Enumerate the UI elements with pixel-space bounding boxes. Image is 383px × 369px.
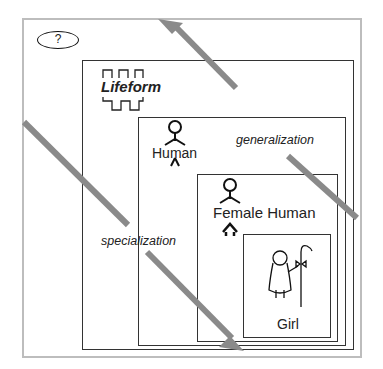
human-label: Human (152, 145, 197, 161)
generalization-label: generalization (236, 133, 314, 147)
girl-icon (269, 246, 312, 307)
specialization-label: specialization (101, 234, 176, 248)
lifeform-label: Lifeform (101, 78, 161, 95)
girl-label: Girl (277, 316, 299, 332)
diagram-graphics (0, 0, 383, 369)
female-human-label: Female Human (213, 204, 316, 221)
generalization-arrow (158, 19, 357, 218)
